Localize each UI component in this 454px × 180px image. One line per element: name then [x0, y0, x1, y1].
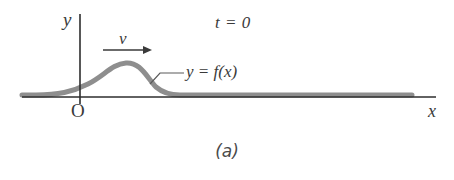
- function-label: y = f(x): [186, 63, 237, 80]
- velocity-arrowhead-icon: [143, 46, 152, 54]
- x-axis-label: x: [428, 102, 436, 120]
- figure-caption: (a): [0, 141, 454, 161]
- origin-label: O: [71, 101, 85, 120]
- y-axis-label: y: [63, 10, 71, 29]
- velocity-label: v: [119, 30, 127, 47]
- wave-pulse-figure: y x O v t = 0 y = f(x) (a): [0, 0, 454, 180]
- time-label: t = 0: [215, 14, 251, 31]
